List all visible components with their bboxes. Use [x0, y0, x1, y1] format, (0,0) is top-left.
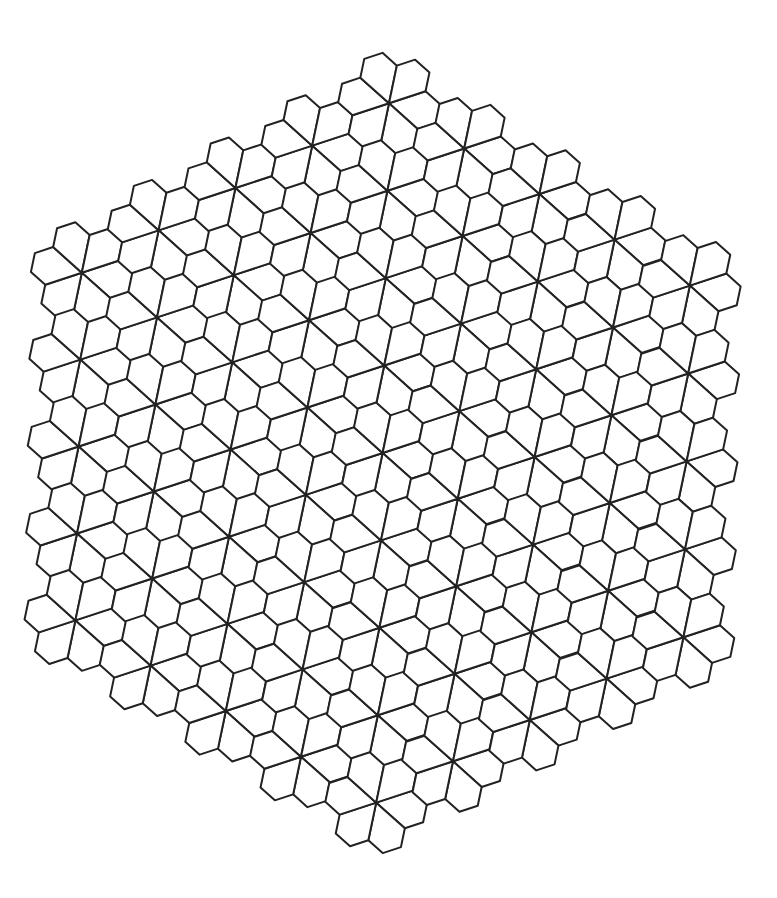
- flower-center-vertex: [463, 147, 466, 150]
- flower-center-vertex: [80, 271, 83, 274]
- flower-center-vertex: [461, 234, 464, 237]
- flower-center-vertex: [151, 577, 154, 580]
- flower-center-vertex: [607, 589, 610, 592]
- flower-center-vertex: [234, 186, 237, 189]
- flower-center-vertex: [74, 619, 77, 622]
- flower-center-vertex: [456, 497, 459, 500]
- flower-center-vertex: [687, 372, 690, 375]
- flower-center-vertex: [530, 631, 533, 634]
- flower-center-vertex: [682, 636, 685, 639]
- flower-center-vertex: [229, 448, 232, 451]
- flower-center-vertex: [306, 406, 309, 409]
- flower-center-vertex: [451, 760, 454, 763]
- flower-center-vertex: [381, 451, 384, 454]
- flower-center-vertex: [531, 543, 534, 546]
- flower-center-vertex: [301, 668, 304, 671]
- flower-center-vertex: [383, 364, 386, 367]
- flower-center-vertex: [309, 231, 312, 234]
- flower-center-vertex: [154, 403, 157, 406]
- flower-center-vertex: [231, 361, 234, 364]
- flower-center-vertex: [683, 548, 686, 551]
- flower-center-vertex: [611, 326, 614, 329]
- flower-center-vertex: [226, 622, 229, 625]
- flower-center-vertex: [453, 672, 456, 675]
- flower-center-vertex: [605, 677, 608, 680]
- flower-center-vertex: [224, 709, 227, 712]
- flower-center-vertex: [157, 229, 160, 232]
- flower-center-vertex: [307, 319, 310, 322]
- flower-center-vertex: [533, 455, 536, 458]
- flower-center-vertex: [688, 284, 691, 287]
- flower-center-vertex: [311, 144, 314, 147]
- flower-center-vertex: [610, 414, 613, 417]
- flower-center-vertex: [608, 501, 611, 504]
- flower-center-vertex: [152, 490, 155, 493]
- flower-center-vertex: [232, 274, 235, 277]
- flower-center-vertex: [458, 410, 461, 413]
- flower-center-vertex: [613, 238, 616, 241]
- flower-center-vertex: [79, 358, 82, 361]
- flower-center-vertex: [538, 192, 541, 195]
- flower-center-vertex: [386, 189, 389, 192]
- flower-center-vertex: [378, 626, 381, 629]
- flower-center-vertex: [459, 322, 462, 325]
- flower-center-vertex: [685, 460, 688, 463]
- flower-center-vertex: [376, 714, 379, 717]
- flower-center-vertex: [299, 755, 302, 758]
- flower-center-vertex: [155, 316, 158, 319]
- flower-center-vertex: [528, 718, 531, 721]
- tiling-diagram: [0, 0, 777, 898]
- flower-center-vertex: [303, 581, 306, 584]
- flower-center-vertex: [375, 801, 378, 804]
- flower-center-vertex: [379, 539, 382, 542]
- flower-center-vertex: [77, 445, 80, 448]
- flower-center-vertex: [455, 585, 458, 588]
- flower-center-vertex: [536, 280, 539, 283]
- flower-center-vertex: [304, 493, 307, 496]
- tile-layer: [25, 53, 741, 853]
- flower-center-vertex: [384, 277, 387, 280]
- flower-center-vertex: [149, 664, 152, 667]
- flower-center-vertex: [535, 368, 538, 371]
- flower-center-vertex: [387, 102, 390, 105]
- flower-center-vertex: [227, 535, 230, 538]
- flower-center-vertex: [75, 532, 78, 535]
